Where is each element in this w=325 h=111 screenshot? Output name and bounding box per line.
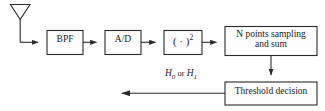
block-square-law[interactable] (164, 31, 202, 55)
antenna-icon (11, 5, 31, 43)
signal-flow-diagram: BPF A/D ( · )2 N points sampling and sum… (0, 0, 325, 111)
block-analog-to-digital[interactable] (105, 31, 141, 55)
block-threshold-decision[interactable] (225, 82, 317, 105)
block-n-points-sampling[interactable] (225, 27, 317, 56)
diagram-canvas (0, 0, 325, 111)
block-bpf[interactable] (47, 31, 83, 55)
